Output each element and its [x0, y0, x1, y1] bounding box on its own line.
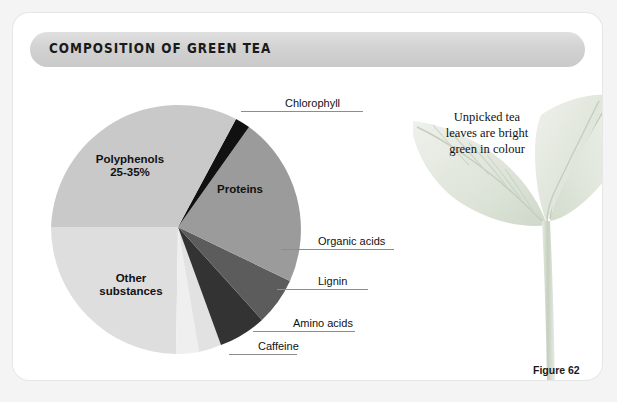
pie-label-polyphenols-value: 25-35% [75, 166, 185, 179]
callout-lignin: Lignin [318, 275, 347, 287]
figure-caption: Figure 62 [533, 364, 580, 376]
figure-page: COMPOSITION OF GREEN TEA [0, 0, 617, 402]
page-title: COMPOSITION OF GREEN TEA [49, 40, 271, 56]
callout-organic-acids: Organic acids [318, 235, 385, 247]
leader-line-organic-acids [281, 249, 394, 250]
pie-label-other-substances: Other substances [76, 272, 186, 298]
photo-caption: Unpicked tea leaves are bright green in … [412, 109, 562, 157]
leader-line-lignin [277, 289, 368, 290]
callout-amino-acids: Amino acids [293, 317, 353, 329]
pie-label-other-line2: substances [76, 285, 186, 298]
tea-leaves-photo [411, 53, 602, 380]
photo-caption-line1: Unpicked tea [412, 109, 562, 125]
pie-label-polyphenols: Polyphenols 25-35% [75, 153, 185, 179]
leader-line-amino-acids [253, 331, 355, 332]
pie-label-other-line1: Other [76, 272, 186, 285]
photo-caption-line2: leaves are bright [412, 125, 562, 141]
figure-card: COMPOSITION OF GREEN TEA [13, 13, 602, 380]
callout-caffeine: Caffeine [258, 340, 299, 352]
pie-label-proteins: Proteins [200, 183, 280, 196]
photo-caption-line3: green in colour [412, 141, 562, 157]
leader-line-chlorophyll [241, 111, 363, 112]
pie-label-polyphenols-name: Polyphenols [75, 153, 185, 166]
callout-chlorophyll: Chlorophyll [285, 97, 340, 109]
leader-line-caffeine [229, 354, 297, 355]
